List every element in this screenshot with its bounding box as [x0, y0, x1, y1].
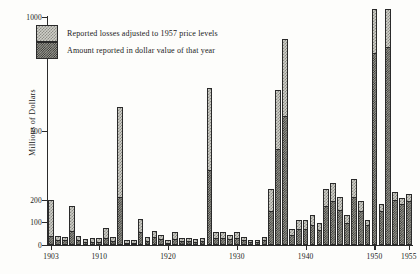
bar-segment-nominal — [200, 241, 206, 245]
bar-group — [255, 240, 261, 245]
bar-segment-nominal — [227, 239, 233, 245]
bar-segment-nominal — [323, 206, 329, 246]
bar-segment-nominal — [96, 242, 102, 245]
bar-segment-nominal — [262, 240, 268, 245]
bar-segment-nominal — [48, 236, 54, 245]
bar-group — [282, 39, 288, 245]
bar-group — [365, 220, 371, 245]
bar-group — [372, 9, 378, 245]
bar-segment-nominal — [83, 242, 89, 245]
x-tick-mark — [374, 245, 375, 250]
bar-segment-nominal — [268, 211, 274, 245]
bar-group — [69, 206, 75, 246]
bar-group — [241, 237, 247, 245]
bar-segment-nominal — [344, 223, 350, 245]
bar-group — [193, 239, 199, 245]
bar-group — [275, 90, 281, 245]
bar-segment-nominal — [289, 235, 295, 245]
bar-segment-nominal — [365, 225, 371, 245]
bar-segment-nominal — [379, 211, 385, 245]
x-tick-mark — [51, 245, 52, 250]
bar-segment-nominal — [76, 240, 82, 245]
legend-label-adjusted: Reported losses adjusted to 1957 price l… — [67, 30, 218, 38]
bar-group — [158, 235, 164, 245]
bar-group — [110, 237, 116, 245]
bar-segment-nominal — [117, 197, 123, 245]
x-tick-label: 1950 — [367, 252, 383, 261]
x-tick-mark — [99, 245, 100, 250]
bar-segment-nominal — [275, 149, 281, 245]
x-tick-label: 1955 — [401, 252, 417, 261]
bar-group — [96, 238, 102, 245]
bar-segment-nominal — [317, 230, 323, 245]
chart-container: Millions of Dollars 01002005001000 19031… — [0, 0, 420, 274]
bar-segment-nominal — [385, 47, 391, 245]
bar-segment-nominal — [255, 242, 261, 245]
bar-group — [337, 197, 343, 245]
bar-group — [179, 238, 185, 245]
bar-segment-nominal — [282, 116, 288, 245]
legend-swatch-adjusted — [36, 25, 58, 42]
x-tick-mark — [409, 245, 410, 250]
bar-segment-nominal — [337, 210, 343, 245]
bar-segment-nominal — [193, 242, 199, 245]
bar-segment-nominal — [131, 243, 137, 245]
bar-group — [385, 9, 391, 245]
bar-group — [207, 88, 213, 245]
bar-segment-nominal — [179, 241, 185, 245]
y-axis-title: Millions of Dollars — [28, 53, 37, 193]
bar-segment-nominal — [69, 231, 75, 245]
bar-group — [186, 238, 192, 245]
x-axis-line — [47, 245, 413, 246]
bar-group — [289, 229, 295, 245]
x-tick-label: 1930 — [229, 252, 245, 261]
bar-group — [220, 232, 226, 245]
bar-segment-nominal — [303, 229, 309, 245]
bar-group — [172, 232, 178, 245]
x-tick-label: 1903 — [43, 252, 59, 261]
bar-group — [317, 223, 323, 245]
bar-group — [76, 236, 82, 245]
y-tick-label: 100 — [14, 218, 42, 227]
bar-segment-nominal — [103, 238, 109, 245]
bar-segment-nominal — [220, 238, 226, 245]
bar-group — [200, 238, 206, 245]
bar-group — [234, 232, 240, 245]
bar-group — [303, 220, 309, 245]
bar-group — [117, 107, 123, 245]
bar-segment-nominal — [358, 211, 364, 245]
y-tick-label: 1000 — [14, 13, 42, 22]
bar-segment-nominal — [152, 237, 158, 245]
bar-group — [55, 236, 61, 245]
bar-segment-nominal — [399, 204, 405, 245]
bar-segment-nominal — [406, 201, 412, 245]
bar-segment-nominal — [296, 229, 302, 245]
bar-segment-nominal — [207, 170, 213, 245]
chart-legend: Reported losses adjusted to 1957 price l… — [36, 25, 218, 59]
bar-group — [62, 237, 68, 245]
bar-segment-nominal — [145, 241, 151, 245]
bar-group — [358, 201, 364, 245]
bar-group — [310, 215, 316, 245]
bar-group — [406, 194, 412, 245]
bar-group — [296, 220, 302, 245]
bar-segment-nominal — [372, 53, 378, 245]
bar-group — [48, 200, 54, 245]
bar-group — [330, 183, 336, 245]
bar-group — [138, 219, 144, 245]
bar-group — [344, 215, 350, 245]
bar-group — [379, 204, 385, 245]
bar-segment-nominal — [392, 200, 398, 245]
bar-group — [262, 237, 268, 245]
x-tick-label: 1940 — [298, 252, 314, 261]
bar-segment-nominal — [55, 240, 61, 245]
bar-group — [351, 179, 357, 245]
bar-segment-nominal — [213, 238, 219, 245]
y-tick-label: 200 — [14, 196, 42, 205]
bar-segment-nominal — [124, 243, 130, 245]
bar-segment-nominal — [330, 201, 336, 245]
bar-group — [227, 235, 233, 245]
y-tick-label: 0 — [14, 241, 42, 250]
bar-group — [152, 231, 158, 245]
bar-group — [90, 238, 96, 245]
